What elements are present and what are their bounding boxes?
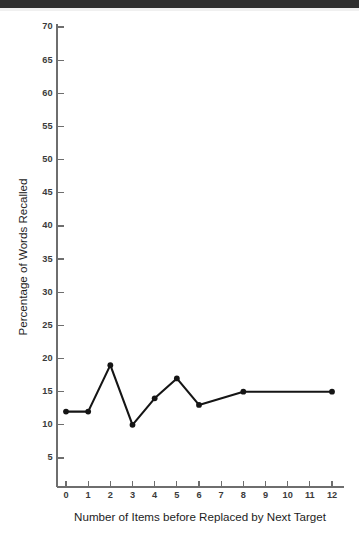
- x-tick-label: 4: [152, 490, 158, 500]
- y-tick-label: 50: [42, 154, 52, 164]
- y-tick-label: 30: [42, 287, 52, 297]
- x-tick-label: 9: [263, 490, 268, 500]
- series-markers: [63, 362, 335, 427]
- x-tick-label: 5: [174, 490, 179, 500]
- y-tick-label: 55: [42, 121, 52, 131]
- x-tick-label: 0: [63, 490, 68, 500]
- data-point-marker: [174, 376, 180, 382]
- data-point-marker: [196, 402, 202, 408]
- figure-page: 510152025303540455055606570 012345678910…: [0, 0, 359, 541]
- y-tick-label: 45: [42, 187, 52, 197]
- data-point-marker: [152, 395, 158, 401]
- y-axis-title: Percentage of Words Recalled: [16, 178, 29, 335]
- data-point-marker: [107, 362, 113, 368]
- y-tick-label: 70: [42, 21, 52, 31]
- y-tick-label: 35: [42, 254, 52, 264]
- data-series-group: [63, 362, 335, 427]
- data-point-marker: [130, 422, 136, 428]
- x-tick-label: 6: [196, 490, 201, 500]
- x-tick-label: 8: [241, 490, 246, 500]
- y-axis-tick-labels: 510152025303540455055606570: [42, 21, 52, 462]
- x-tick-label: 10: [283, 490, 293, 500]
- x-axis-ticks: [66, 481, 332, 487]
- line-chart-figure: 510152025303540455055606570 012345678910…: [0, 0, 359, 541]
- x-tick-label: 3: [130, 490, 135, 500]
- data-point-marker: [329, 389, 335, 395]
- y-axis-ticks: [57, 27, 64, 458]
- y-tick-label: 15: [42, 386, 52, 396]
- x-axis-title: Number of Items before Replaced by Next …: [74, 510, 327, 523]
- x-tick-label: 2: [108, 490, 113, 500]
- y-tick-label: 65: [42, 55, 52, 65]
- x-axis-tick-labels: 0123456789101112: [63, 490, 337, 500]
- y-tick-label: 10: [42, 419, 52, 429]
- x-tick-label: 7: [219, 490, 224, 500]
- x-tick-label: 12: [327, 490, 337, 500]
- y-tick-label: 20: [42, 353, 52, 363]
- data-point-marker: [63, 409, 69, 415]
- x-tick-label: 11: [305, 490, 315, 500]
- x-tick-label: 1: [86, 490, 91, 500]
- y-tick-label: 5: [47, 452, 52, 462]
- x-axis-group: 0123456789101112: [57, 481, 344, 500]
- data-point-marker: [85, 409, 91, 415]
- y-tick-label: 25: [42, 320, 52, 330]
- chart-svg: 510152025303540455055606570 012345678910…: [0, 0, 359, 541]
- y-tick-label: 40: [42, 220, 52, 230]
- data-point-marker: [240, 389, 246, 395]
- y-axis-group: 510152025303540455055606570: [42, 21, 63, 487]
- y-tick-label: 60: [42, 88, 52, 98]
- series-line-path: [66, 365, 332, 425]
